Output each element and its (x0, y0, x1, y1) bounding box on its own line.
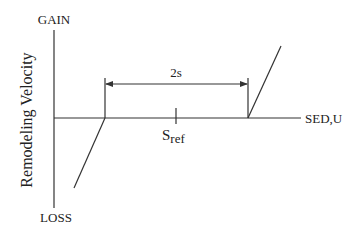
reference-label-sub: ref (170, 131, 185, 146)
remodeling-diagram: GAIN LOSS Remodeling Velocity SED,U 2s S… (0, 0, 358, 232)
dead-zone-width-label: 2s (170, 65, 182, 80)
x-axis-title: SED,U (305, 111, 343, 126)
y-axis-title: Remodeling Velocity (18, 52, 36, 187)
resorption-line (74, 118, 105, 188)
formation-line (248, 46, 281, 118)
loss-label: LOSS (40, 210, 72, 225)
reference-label-main: S (162, 127, 170, 143)
reference-label: Sref (162, 127, 185, 146)
gain-label: GAIN (38, 12, 71, 27)
